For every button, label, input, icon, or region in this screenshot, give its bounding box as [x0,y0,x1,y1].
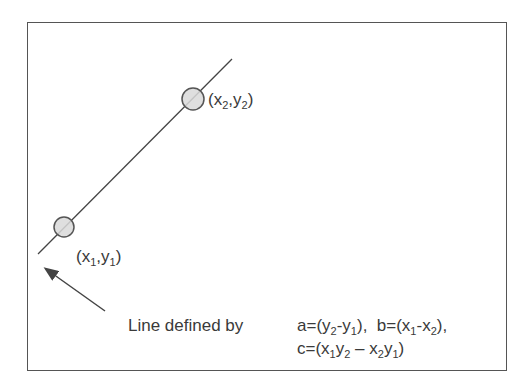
point-2-marker [182,88,204,110]
point-1-marker [54,217,74,237]
point-1-label: (x1,y1) [76,248,121,265]
formula-c: c=(x1y2 – x2y1) [297,339,404,358]
formula-line-2: c=(x1y2 – x2y1) [297,340,404,357]
formula-b: b=(x1-x2), [377,316,447,335]
diagram-canvas [0,0,532,387]
pointer-arrow [46,269,105,311]
formula-line-1: a=(y2-y1), b=(x1-x2), [297,317,447,334]
formula-a: a=(y2-y1), [297,316,367,335]
point-2-label: (x2,y2) [208,91,253,108]
caption: Line defined by [128,317,243,334]
